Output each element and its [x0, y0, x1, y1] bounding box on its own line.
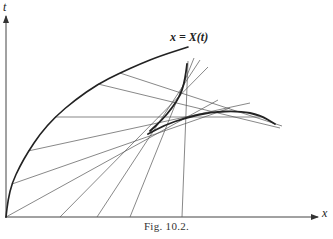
figure-caption: Fig. 10.2. [0, 220, 333, 232]
characteristics-diagram [0, 0, 333, 239]
t-axis-label: t [3, 0, 6, 15]
characteristic-line [98, 84, 280, 128]
characteristic-lines [6, 58, 282, 217]
curve-label: x = X(t) [170, 30, 208, 45]
x-axis-label: x [322, 206, 327, 221]
characteristic-line [12, 108, 230, 184]
characteristic-line [60, 67, 208, 217]
